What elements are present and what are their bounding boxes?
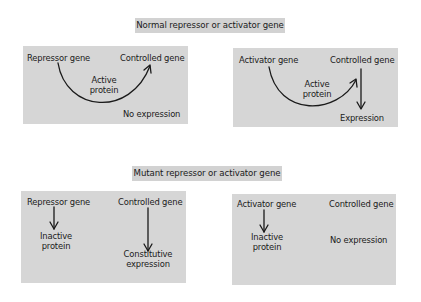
curved-arrow-icon (269, 67, 356, 106)
curved-arrow-icon (58, 63, 150, 102)
arrowhead-icon (350, 79, 357, 87)
arrows-layer (0, 0, 421, 302)
